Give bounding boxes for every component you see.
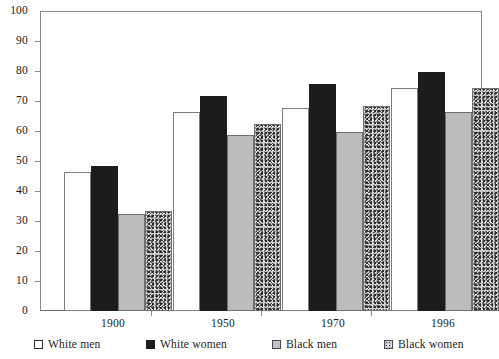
bar-1996-white-women <box>418 72 445 311</box>
legend-swatch-black-women-icon <box>384 340 393 349</box>
plot-area <box>41 12 481 311</box>
bar-1970-white-women <box>309 84 336 311</box>
legend-swatch-black-men-icon <box>272 340 281 349</box>
bar-group-1950 <box>173 12 281 311</box>
bar-group-1996 <box>391 12 499 311</box>
legend-item-black-men: Black men <box>272 338 337 350</box>
legend-item-white-women: White women <box>146 338 227 350</box>
x-category-label-1950: 1950 <box>168 317 278 329</box>
bar-1900-white-women <box>91 166 118 311</box>
legend-swatch-white-men-icon <box>34 340 43 349</box>
bar-1900-white-men <box>64 172 91 311</box>
legend-item-black-women: Black women <box>384 338 464 350</box>
bar-1996-black-women <box>472 88 499 311</box>
legend-label-black-men: Black men <box>286 338 337 350</box>
legend-label-black-women: Black women <box>398 338 464 350</box>
bar-1900-black-women <box>145 211 172 311</box>
x-tick-mark <box>261 311 262 316</box>
x-tick-mark <box>151 311 152 316</box>
x-tick-mark <box>371 311 372 316</box>
bar-1950-white-women <box>200 96 227 311</box>
y-axis-tick-marks <box>0 0 34 359</box>
bar-group-1970 <box>282 12 390 311</box>
bar-1950-black-women <box>254 124 281 311</box>
chart-legend: White men White women Black men Black wo… <box>0 338 496 356</box>
bar-1900-black-men <box>118 214 145 311</box>
x-category-label-1996: 1996 <box>388 317 498 329</box>
legend-item-white-men: White men <box>34 338 101 350</box>
x-category-label-1970: 1970 <box>278 317 388 329</box>
bar-1950-white-men <box>173 112 200 311</box>
bar-1950-black-men <box>227 135 254 311</box>
bar-1970-black-women <box>363 106 390 311</box>
bar-1970-white-men <box>282 108 309 311</box>
legend-label-white-men: White men <box>48 338 101 350</box>
bar-1970-black-men <box>336 132 363 311</box>
legend-label-white-women: White women <box>160 338 227 350</box>
bar-1996-white-men <box>391 88 418 311</box>
bar-group-1900 <box>64 12 172 311</box>
legend-swatch-white-women-icon <box>146 340 155 349</box>
bar-1996-black-men <box>445 112 472 311</box>
x-category-label-1900: 1900 <box>58 317 168 329</box>
